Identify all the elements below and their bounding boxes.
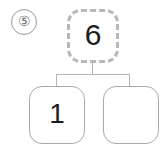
worksheet-item-canvas: ⑤ 6 1 <box>0 0 166 148</box>
number-bond-part-right-box[interactable] <box>103 86 159 144</box>
number-bond-part-left-value: 1 <box>49 98 65 130</box>
number-bond-whole-box[interactable]: 6 <box>67 9 119 63</box>
number-bond-whole-value: 6 <box>85 18 102 52</box>
number-bond-part-left-box[interactable]: 1 <box>29 86 85 144</box>
connector-crossbar <box>56 74 130 75</box>
problem-number-badge: ⑤ <box>11 9 37 35</box>
